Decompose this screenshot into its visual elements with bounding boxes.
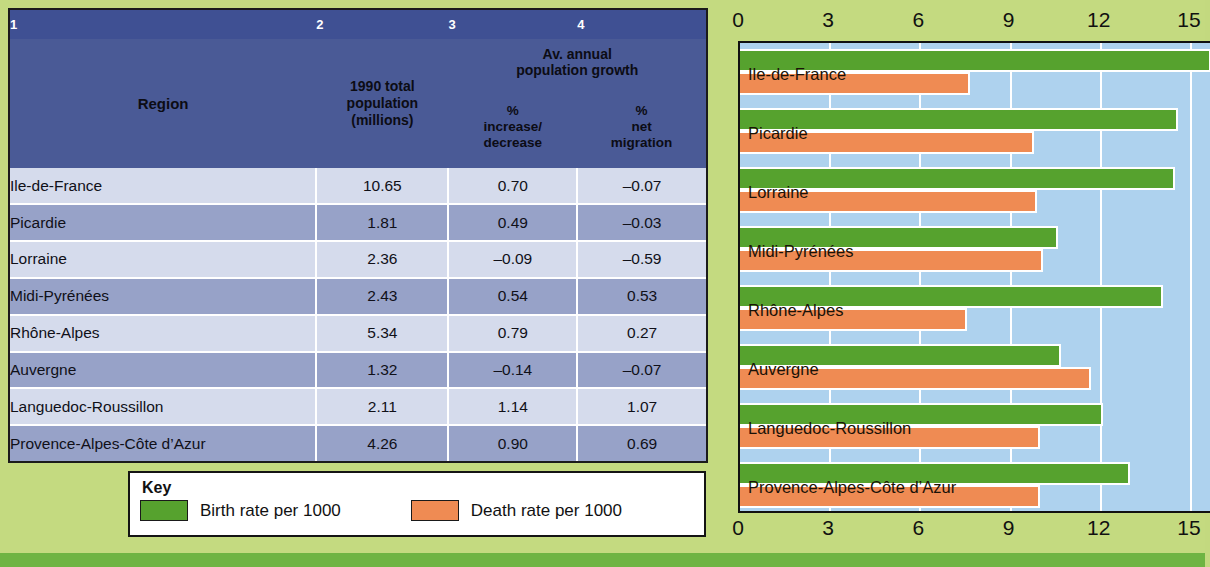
table-row: Provence-Alpes-Côte d’Azur 4.26 0.90 0.6… [10, 425, 706, 461]
axis-tick-15: 15 [1177, 8, 1200, 32]
bar-category-label: Languedoc-Roussillon [748, 419, 911, 438]
axis-tick-15: 15 [1177, 516, 1200, 540]
cell-population: 2.43 [316, 278, 448, 315]
cell-region: Provence-Alpes-Côte d’Azur [10, 425, 316, 461]
header-increase-line-1: % [448, 103, 577, 119]
bar-chart-panel: 03691215 Ile-de-FrancePicardieLorraineMi… [716, 0, 1205, 553]
header-migration-line-3: migration [577, 135, 706, 151]
table-row: Languedoc-Roussillon 2.11 1.14 1.07 [10, 388, 706, 425]
column-number-1: 1 [10, 10, 316, 39]
axis-tick-9: 9 [1003, 8, 1015, 32]
table-row: Picardie 1.81 0.49 –0.03 [10, 204, 706, 241]
chart-key: Key Birth rate per 1000 Death rate per 1… [128, 471, 706, 537]
chart-row-group: Rhône-Alpes [740, 279, 1210, 338]
header-migration-line-2: net [577, 119, 706, 135]
bar-category-label: Ile-de-France [748, 65, 846, 84]
table-row: Auvergne 1.32 –0.14 –0.07 [10, 352, 706, 389]
axis-tick-6: 6 [913, 8, 925, 32]
cell-region: Auvergne [10, 352, 316, 389]
column-number-2: 2 [316, 10, 448, 39]
bar-category-label: Lorraine [748, 183, 809, 202]
chart-row-group: Picardie [740, 102, 1210, 161]
key-label-birth-rate: Birth rate per 1000 [200, 501, 341, 521]
cell-region: Picardie [10, 204, 316, 241]
axis-tick-0: 0 [732, 8, 744, 32]
bar-category-label: Rhône-Alpes [748, 301, 843, 320]
header-increase-line-2: increase/ [448, 119, 577, 135]
header-increase-line-3: decrease [448, 135, 577, 151]
cell-population: 1.32 [316, 352, 448, 389]
cell-migration: 0.53 [577, 278, 706, 315]
header-region: Region [10, 39, 316, 168]
cell-increase: 0.54 [448, 278, 577, 315]
header-population: 1990 total population (millions) [316, 39, 448, 168]
bar-category-label: Provence-Alpes-Côte d’Azur [748, 478, 956, 497]
column-number-4: 4 [577, 10, 706, 39]
cell-population: 1.81 [316, 204, 448, 241]
cell-region: Midi-Pyrénées [10, 278, 316, 315]
header-group-row: Region 1990 total population (millions) … [10, 39, 706, 86]
cell-increase: 0.90 [448, 425, 577, 461]
header-population-line-1: 1990 total [316, 78, 448, 95]
cell-region: Ile-de-France [10, 168, 316, 204]
key-items: Birth rate per 1000 Death rate per 1000 [140, 500, 704, 521]
death-rate-swatch-icon [411, 500, 459, 521]
cell-population: 10.65 [316, 168, 448, 204]
chart-row-group: Ile-de-France [740, 43, 1210, 102]
axis-tick-12: 12 [1087, 516, 1110, 540]
header-increase-decrease: % increase/ decrease [448, 86, 577, 169]
axis-tick-9: 9 [1003, 516, 1015, 540]
cell-region: Lorraine [10, 241, 316, 278]
chart-row-group: Languedoc-Roussillon [740, 397, 1210, 456]
chart-plot-area: Ile-de-FrancePicardieLorraineMidi-Pyréné… [738, 41, 1210, 513]
axis-tick-12: 12 [1087, 8, 1110, 32]
cell-increase: 0.70 [448, 168, 577, 204]
key-item-death-rate: Death rate per 1000 [411, 500, 622, 521]
header-growth-group: Av. annual population growth [448, 39, 706, 86]
chart-row-group: Lorraine [740, 161, 1210, 220]
table-row: Rhône-Alpes 5.34 0.79 0.27 [10, 315, 706, 352]
cell-increase: –0.14 [448, 352, 577, 389]
page-bottom-strip [0, 553, 1205, 567]
column-number-3: 3 [448, 10, 577, 39]
chart-row-group: Auvergne [740, 338, 1210, 397]
table-row: Lorraine 2.36 –0.09 –0.59 [10, 241, 706, 278]
cell-migration: –0.07 [577, 168, 706, 204]
header-growth-line-2: population growth [448, 62, 706, 79]
cell-region: Rhône-Alpes [10, 315, 316, 352]
data-table-container: 1 2 3 4 Region 1990 total population (mi… [8, 8, 708, 463]
cell-increase: –0.09 [448, 241, 577, 278]
chart-row-group: Midi-Pyrénées [740, 220, 1210, 279]
cell-population: 2.36 [316, 241, 448, 278]
cell-migration: 0.69 [577, 425, 706, 461]
bar-category-label: Midi-Pyrénées [748, 242, 853, 261]
header-growth-line-1: Av. annual [448, 46, 706, 63]
column-number-row: 1 2 3 4 [10, 10, 706, 39]
table-row: Ile-de-France 10.65 0.70 –0.07 [10, 168, 706, 204]
header-population-line-3: (millions) [316, 112, 448, 129]
axis-tick-6: 6 [913, 516, 925, 540]
cell-increase: 0.49 [448, 204, 577, 241]
cell-migration: 0.27 [577, 315, 706, 352]
cell-increase: 1.14 [448, 388, 577, 425]
table-row: Midi-Pyrénées 2.43 0.54 0.53 [10, 278, 706, 315]
cell-population: 2.11 [316, 388, 448, 425]
key-title: Key [142, 479, 704, 497]
cell-migration: –0.59 [577, 241, 706, 278]
axis-tick-3: 3 [822, 8, 834, 32]
birth-rate-swatch-icon [140, 500, 188, 521]
cell-population: 5.34 [316, 315, 448, 352]
axis-tick-0: 0 [732, 516, 744, 540]
header-population-line-2: population [316, 95, 448, 112]
cell-increase: 0.79 [448, 315, 577, 352]
header-net-migration: % net migration [577, 86, 706, 169]
cell-migration: 1.07 [577, 388, 706, 425]
bar-category-label: Picardie [748, 124, 808, 143]
table-panel: 1 2 3 4 Region 1990 total population (mi… [0, 0, 716, 553]
chart-axis-top: 03691215 [738, 8, 1210, 38]
key-label-death-rate: Death rate per 1000 [471, 501, 622, 521]
chart-row-group: Provence-Alpes-Côte d’Azur [740, 456, 1210, 513]
chart-axis-bottom: 03691215 [738, 516, 1210, 546]
axis-tick-3: 3 [822, 516, 834, 540]
